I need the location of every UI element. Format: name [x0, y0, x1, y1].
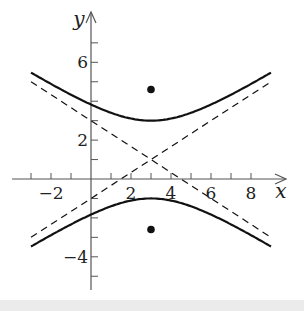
asymptotes	[31, 82, 271, 238]
hyperbola-chart: −2246862−4xy	[0, 0, 304, 300]
hyperbola-lower-branch	[31, 198, 271, 246]
focus-point	[147, 226, 155, 234]
focus-point	[147, 86, 155, 94]
x-tick-label: 4	[166, 183, 177, 203]
hyperbola-upper-branch	[31, 73, 271, 121]
tick-labels: −2246862−4xy	[38, 7, 286, 267]
y-tick-label: −4	[63, 247, 88, 267]
y-tick-label: 2	[77, 130, 88, 150]
x-tick-label: −2	[38, 183, 63, 203]
bottom-strip	[0, 300, 304, 311]
x-tick-label: 8	[246, 183, 257, 203]
foci-points	[147, 86, 155, 234]
x-axis-label: x	[275, 179, 286, 203]
x-tick-label: 6	[206, 183, 217, 203]
y-tick-label: 6	[77, 52, 88, 72]
x-tick-label: 2	[126, 183, 137, 203]
axes	[12, 12, 286, 290]
hyperbola-curves	[31, 73, 271, 247]
y-axis-label: y	[72, 7, 85, 31]
